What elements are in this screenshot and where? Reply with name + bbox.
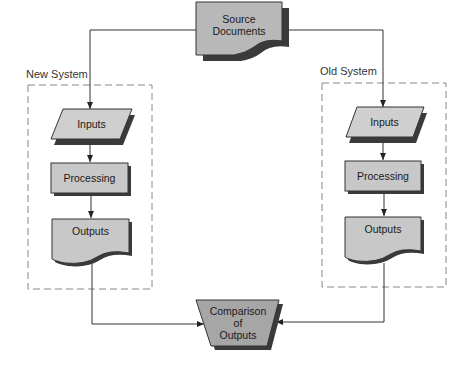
connector-new-outputs-to-comparison xyxy=(92,263,204,324)
new-processing-text: Processing xyxy=(64,172,116,184)
new-outputs-text: Outputs xyxy=(72,225,109,237)
new-inputs-label: Inputs xyxy=(55,109,128,139)
old-outputs-text: Outputs xyxy=(365,223,402,235)
old-outputs-label: Outputs xyxy=(345,217,421,241)
old-processing-label: Processing xyxy=(345,161,421,191)
comparison-label: Comparison of Outputs xyxy=(203,302,273,344)
comparison-line-3: Outputs xyxy=(220,329,257,341)
old-inputs-label: Inputs xyxy=(349,107,420,137)
new-outputs-label: Outputs xyxy=(52,219,129,243)
new-system-title: New System xyxy=(26,68,88,80)
new-processing-label: Processing xyxy=(51,163,128,193)
source-line-1: Source xyxy=(222,13,255,25)
old-inputs-text: Inputs xyxy=(370,116,399,128)
source-documents-label: Source Documents xyxy=(196,5,282,45)
parallel-conversion-flowchart: New System Old System Source Documents I… xyxy=(0,0,470,369)
comparison-line-1: Comparison xyxy=(210,305,267,317)
connector-old-outputs-to-comparison xyxy=(276,263,384,322)
old-processing-text: Processing xyxy=(357,170,409,182)
old-system-title: Old System xyxy=(320,65,377,77)
new-inputs-text: Inputs xyxy=(77,118,106,130)
source-line-2: Documents xyxy=(212,25,265,37)
comparison-line-2: of xyxy=(234,317,243,329)
connector-source-to-new-inputs xyxy=(90,30,196,109)
